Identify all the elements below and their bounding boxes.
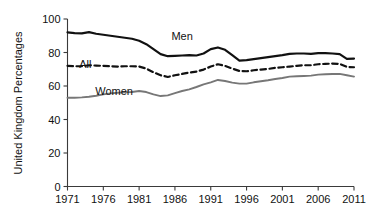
x-tick-label: 1986 [163, 193, 187, 205]
y-tick-label: 80 [48, 47, 60, 59]
x-tick-label: 1996 [234, 193, 258, 205]
x-tick-label: 1991 [199, 193, 223, 205]
x-tick-label: 2006 [306, 193, 330, 205]
chart-container: United Kingdom Percentages 020406080100 … [0, 0, 372, 218]
y-tick-label: 60 [48, 80, 60, 92]
y-tick-label: 40 [48, 114, 60, 126]
y-tick-label: 100 [42, 13, 60, 25]
x-tick-label: 2011 [342, 193, 366, 205]
line-chart: United Kingdom Percentages 020406080100 … [0, 0, 372, 218]
axis-lines [68, 19, 355, 187]
series-label-men: Men [171, 30, 192, 42]
x-axis-ticks: 197119761981198619911996200120062011 [55, 187, 366, 205]
axes [68, 19, 355, 187]
series-label-all: All [79, 58, 91, 70]
y-axis-title: United Kingdom Percentages [12, 31, 24, 175]
x-tick-label: 1981 [127, 193, 151, 205]
y-axis-title-label: United Kingdom Percentages [12, 31, 24, 175]
series-line-men [68, 32, 355, 60]
y-axis-ticks: 020406080100 [42, 13, 67, 193]
x-tick-label: 1976 [91, 193, 115, 205]
y-tick-label: 20 [48, 147, 60, 159]
series-label-women: Women [95, 85, 133, 97]
y-tick-label: 0 [54, 181, 60, 193]
x-tick-label: 1971 [55, 193, 79, 205]
x-tick-label: 2001 [270, 193, 294, 205]
